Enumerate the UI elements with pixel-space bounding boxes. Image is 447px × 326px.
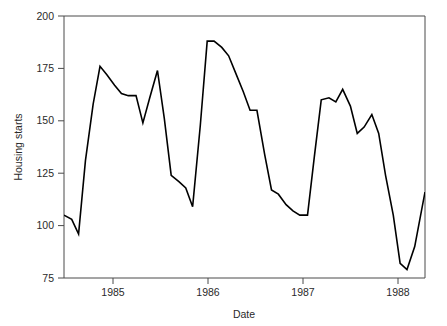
x-tick-label-1985: 1985	[101, 286, 125, 298]
x-tick-label-1986: 1986	[196, 286, 220, 298]
y-tick-label-125: 125	[36, 167, 54, 179]
x-tick-label-1988: 1988	[386, 286, 410, 298]
x-tick-label-1987: 1987	[291, 286, 315, 298]
y-tick-label-150: 150	[36, 114, 54, 126]
y-tick-label-100: 100	[36, 219, 54, 231]
chart-svg: 75 100 125 150 175 200 1985 1986 1987 19…	[0, 0, 447, 326]
y-tick-label-175: 175	[36, 62, 54, 74]
y-axis-title: Housing starts	[12, 113, 24, 180]
y-tick-label-200: 200	[36, 10, 54, 22]
y-tick-label-75: 75	[42, 272, 54, 284]
housing-starts-chart: 75 100 125 150 175 200 1985 1986 1987 19…	[0, 0, 447, 326]
x-axis-title: Date	[233, 308, 255, 320]
